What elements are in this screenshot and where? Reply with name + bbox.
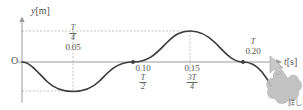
period-symbol: T	[246, 38, 261, 46]
y-axis-arrowhead	[19, 17, 24, 23]
tick-value-quarter: 0.05	[66, 43, 81, 52]
fraction-denominator: 2	[140, 83, 146, 91]
tick-label-full: T 0.20	[246, 38, 261, 56]
fraction-3t-over-4: 3T 4	[187, 74, 197, 92]
fraction-denominator: 4	[70, 34, 76, 42]
x-axis-label: t[s]	[284, 57, 297, 67]
tick-value-full: 0.20	[246, 47, 261, 56]
tick-label-quarter: T 4 0.05	[66, 24, 81, 52]
callout-text: 詳し	[288, 97, 302, 107]
origin-label: O	[11, 56, 18, 66]
tick-value-half: 0.10	[136, 64, 151, 73]
y-axis-label: y[m]	[31, 6, 50, 16]
x-axis-arrowhead	[276, 59, 282, 65]
y-axis-unit: [m]	[35, 5, 49, 16]
tick-label-half: 0.10 T 2	[136, 64, 151, 92]
fraction-t-over-2: T 2	[140, 74, 146, 92]
x-axis-unit: [s]	[287, 56, 298, 67]
tick-value-three-quarter: 0.15	[185, 64, 200, 73]
zero-crossing-marker-half	[131, 60, 135, 64]
waveform-figure: y[m] t[s] O T 4 0.05 0.10 T 2 0.15 3T 4 …	[0, 0, 303, 110]
zero-crossing-marker-full	[241, 60, 245, 64]
fraction-denominator: 4	[187, 83, 197, 91]
tick-label-three-quarter: 0.15 3T 4	[185, 64, 200, 92]
fraction-t-over-4: T 4	[70, 24, 76, 42]
